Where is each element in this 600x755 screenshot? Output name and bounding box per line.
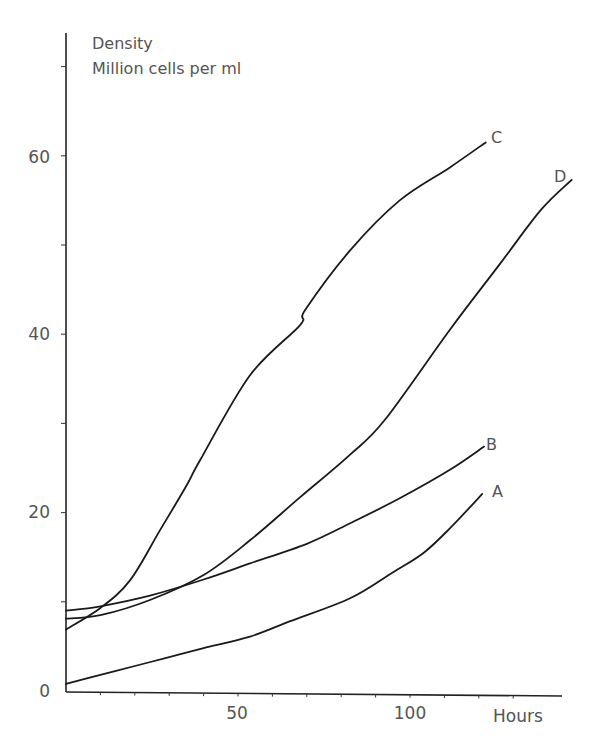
y-axis-title-line1: Density bbox=[92, 34, 153, 53]
curves bbox=[66, 142, 572, 684]
curve-label-a: A bbox=[492, 482, 503, 501]
curve-b bbox=[66, 447, 484, 611]
curve-c bbox=[66, 142, 486, 629]
y-tick-label-40: 40 bbox=[28, 324, 50, 344]
curve-a bbox=[66, 494, 482, 684]
y-axis-title-line2: Million cells per ml bbox=[92, 59, 241, 78]
curve-d bbox=[66, 180, 572, 619]
curve-label-d: D bbox=[554, 167, 566, 186]
curve-label-b: B bbox=[486, 435, 497, 454]
x-axis bbox=[66, 692, 562, 696]
y-tick-label-60: 60 bbox=[28, 147, 50, 167]
x-tick-label-100: 100 bbox=[394, 703, 426, 723]
curve-label-c: C bbox=[491, 128, 502, 147]
x-axis-title: Hours bbox=[493, 706, 543, 726]
x-tick-label-50: 50 bbox=[226, 703, 248, 723]
y-tick-label-20: 20 bbox=[28, 502, 50, 522]
density-growth-chart: 60 40 20 0 50 100 Hours Density Million … bbox=[0, 0, 600, 755]
y-tick-label-0: 0 bbox=[39, 681, 50, 701]
